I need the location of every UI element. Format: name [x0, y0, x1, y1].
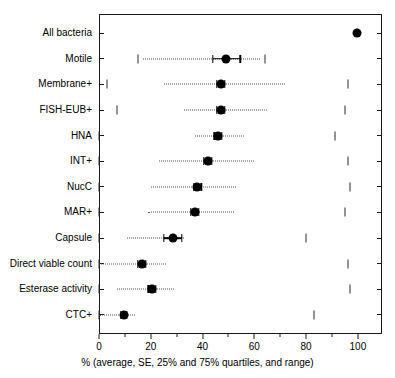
x-axis-tick [254, 334, 255, 339]
mean-marker [168, 234, 177, 243]
range-max-cap [334, 131, 335, 140]
mean-marker [119, 310, 128, 319]
x-axis-tick [150, 334, 151, 339]
se-cap-high [239, 55, 240, 63]
range-min-cap [99, 157, 100, 166]
x-axis-tick-label: 20 [145, 341, 156, 352]
mean-marker [216, 106, 225, 115]
x-axis-tick-label: 40 [197, 341, 208, 352]
y-axis-tick-left [99, 161, 104, 162]
x-axis-minor-tick [228, 334, 229, 337]
x-axis-label: % (average, SE, 25% and 75% quartiles, a… [0, 357, 395, 368]
range-max-cap [347, 157, 348, 166]
y-axis-category-label: HNA [71, 131, 92, 141]
x-axis-tick-label: 80 [301, 341, 312, 352]
mean-marker [221, 54, 230, 63]
range-max-cap [347, 259, 348, 268]
mean-marker [193, 182, 202, 191]
range-max-cap [344, 208, 345, 217]
y-axis-tick-left [99, 135, 104, 136]
range-min-cap [106, 80, 107, 89]
y-axis-category-label: NucC [67, 182, 92, 192]
x-axis-tick [357, 334, 358, 339]
quartile-whisker [143, 58, 260, 59]
y-axis-tick-left [99, 212, 104, 213]
mean-marker [216, 80, 225, 89]
quartile-whisker [99, 263, 166, 264]
mean-marker [148, 285, 157, 294]
range-max-cap [306, 234, 307, 243]
y-axis-tick-right [377, 84, 382, 85]
x-axis-tick-label: 0 [96, 341, 102, 352]
y-axis-tick-left [99, 33, 104, 34]
x-axis-minor-tick [332, 334, 333, 337]
quartile-whisker [184, 110, 267, 111]
x-axis-tick-label: 60 [249, 341, 260, 352]
y-axis-category-label: CTC+ [66, 310, 92, 320]
y-axis-tick-right [377, 212, 382, 213]
x-axis-tick [306, 334, 307, 339]
x-axis-tick-label: 100 [350, 341, 367, 352]
y-axis-tick-left [99, 110, 104, 111]
y-axis-tick-left [99, 238, 104, 239]
mean-marker [137, 259, 146, 268]
range-min-cap [137, 54, 138, 63]
y-axis-tick-right [377, 238, 382, 239]
y-axis-tick-right [377, 263, 382, 264]
range-max-cap [347, 80, 348, 89]
range-max-cap [344, 106, 345, 115]
y-axis-tick-right [377, 58, 382, 59]
mean-marker [352, 29, 361, 38]
y-axis-tick-right [377, 314, 382, 315]
y-axis-tick-left [99, 186, 104, 187]
range-max-cap [264, 54, 265, 63]
mean-marker [214, 131, 223, 140]
range-min-cap [117, 106, 118, 115]
y-axis-tick-right [377, 33, 382, 34]
y-axis-tick-right [377, 289, 382, 290]
quartile-whisker [99, 314, 135, 315]
range-min-cap [99, 310, 100, 319]
y-axis-category-label: FISH-EUB+ [39, 105, 92, 115]
range-min-cap [99, 131, 100, 140]
range-min-cap [99, 182, 100, 191]
se-cap-low [212, 55, 213, 63]
range-min-cap [99, 259, 100, 268]
y-axis-category-label: Motile [65, 54, 92, 64]
y-axis-tick-right [377, 110, 382, 111]
y-axis-category-label: Capsule [55, 233, 92, 243]
x-axis-minor-tick [176, 334, 177, 337]
y-axis-tick-left [99, 58, 104, 59]
range-min-cap [99, 285, 100, 294]
range-max-cap [313, 310, 314, 319]
y-axis-category-label: All bacteria [43, 28, 92, 38]
y-axis-tick-right [377, 161, 382, 162]
mean-marker [190, 208, 199, 217]
range-min-cap [99, 234, 100, 243]
y-axis-tick-left [99, 289, 104, 290]
x-axis-tick [99, 334, 100, 339]
y-axis-category-label: Direct viable count [10, 259, 92, 269]
se-cap-low [163, 234, 164, 242]
y-axis-tick-right [377, 186, 382, 187]
x-axis-tick [202, 334, 203, 339]
range-min-cap [99, 208, 100, 217]
figure-container: All bacteriaMotileMembrane+FISH-EUB+HNAI… [0, 0, 395, 378]
range-max-cap [350, 285, 351, 294]
x-axis-minor-tick [124, 334, 125, 337]
y-axis-tick-left [99, 84, 104, 85]
y-axis-category-label: Esterase activity [19, 284, 92, 294]
y-axis-category-label: MAR+ [64, 207, 92, 217]
quartile-whisker [117, 289, 174, 290]
x-axis-minor-tick [280, 334, 281, 337]
y-axis-tick-right [377, 135, 382, 136]
mean-marker [203, 157, 212, 166]
range-max-cap [350, 182, 351, 191]
y-axis-category-label: INT+ [70, 156, 92, 166]
y-axis-category-label: Membrane+ [38, 79, 92, 89]
se-cap-high [181, 234, 182, 242]
